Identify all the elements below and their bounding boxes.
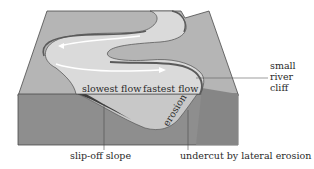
label-fastest-flow: fastest flow	[143, 83, 198, 94]
label-undercut: undercut by lateral erosion	[180, 150, 311, 161]
label-small: small	[270, 60, 296, 71]
label-slowest-flow: slowest flow	[82, 83, 141, 94]
front-right-face	[196, 88, 238, 145]
label-slip-off-slope: slip-off slope	[70, 150, 131, 161]
label-river: river	[270, 71, 294, 82]
label-cliff: cliff	[270, 82, 289, 93]
river-meander-diagram: slowest flow fastest flow erosion small …	[0, 0, 314, 169]
